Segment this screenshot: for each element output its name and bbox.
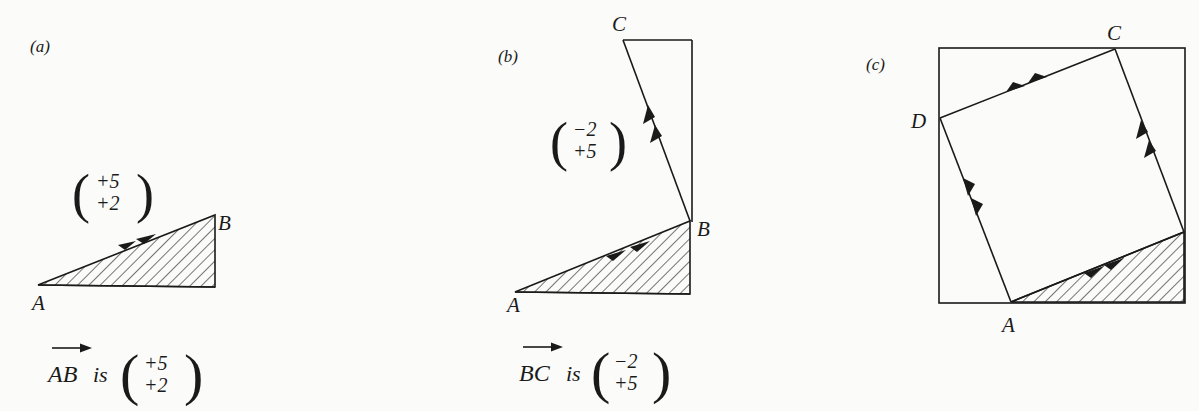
hatched-triangle-ab xyxy=(515,221,690,294)
caption-ab-is: is xyxy=(93,362,108,387)
right-paren: ) xyxy=(609,112,627,172)
caption-bc: BC is ( −2 +5 ) xyxy=(519,340,671,405)
vector-ab-top: +5 xyxy=(96,170,120,192)
point-a-label: A xyxy=(505,293,520,317)
caption-ab-top: +5 xyxy=(144,352,168,374)
caption-bc-bottom: +5 xyxy=(614,372,638,394)
vector-diagram: (a) A B ( +5 +2 ) AB is ( +5 +2 ) (b) xyxy=(0,0,1199,411)
left-paren: ( xyxy=(591,340,610,405)
left-paren: ( xyxy=(120,342,139,407)
vector-arrow-icon xyxy=(80,344,92,353)
vector-arrow-icon xyxy=(551,343,563,352)
point-a-label: A xyxy=(30,291,45,315)
point-c-label: C xyxy=(1107,21,1122,45)
panel-b: (b) A B C ( −2 +5 ) BC is ( xyxy=(498,12,710,405)
caption-bc-name: BC xyxy=(519,360,551,386)
caption-ab-name: AB xyxy=(46,361,78,387)
caption-bc-top: −2 xyxy=(614,350,638,372)
double-arrow-bc-icon xyxy=(643,105,662,143)
double-arrow-da-icon xyxy=(963,178,983,216)
right-paren: ) xyxy=(652,340,671,405)
left-paren: ( xyxy=(72,164,90,224)
panel-b-label: (b) xyxy=(498,47,518,66)
hatched-triangle-ab xyxy=(38,215,215,287)
panel-a: (a) A B ( +5 +2 ) AB is ( +5 +2 ) xyxy=(30,37,231,407)
right-paren: ) xyxy=(136,164,154,224)
vector-bc-column: ( −2 +5 ) xyxy=(550,112,627,172)
point-a-label: A xyxy=(1000,313,1015,337)
right-paren: ) xyxy=(184,342,203,407)
left-paren: ( xyxy=(550,112,568,172)
vector-bc-bottom: +5 xyxy=(573,140,597,162)
caption-ab: AB is ( +5 +2 ) xyxy=(46,342,203,407)
point-b-label: B xyxy=(218,211,231,235)
point-d-label: D xyxy=(910,109,926,133)
double-arrow-cd-icon xyxy=(1006,73,1047,92)
panel-a-label: (a) xyxy=(30,37,50,56)
caption-bc-is: is xyxy=(566,361,581,386)
double-arrow-bc-icon xyxy=(1136,120,1156,158)
caption-ab-bottom: +2 xyxy=(144,374,168,396)
vector-ab-column: ( +5 +2 ) xyxy=(72,164,154,224)
vector-bc-top: −2 xyxy=(573,118,597,140)
vector-ab-bottom: +2 xyxy=(96,192,120,214)
point-b-label: B xyxy=(697,217,710,241)
panel-c-label: (c) xyxy=(866,55,885,74)
point-c-label: C xyxy=(612,12,627,36)
panel-c: (c) C D A xyxy=(866,21,1185,337)
